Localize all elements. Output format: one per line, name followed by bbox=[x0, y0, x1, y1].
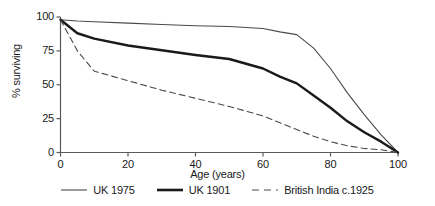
survival-curve-chart: % surviving Age (years) UK 1975 UK 1901 … bbox=[0, 0, 435, 206]
legend-label-uk-1901: UK 1901 bbox=[189, 184, 230, 196]
series-line-uk-1975 bbox=[61, 20, 399, 153]
legend-swatch-thin-solid bbox=[61, 185, 87, 195]
legend-swatch-dashed bbox=[252, 185, 278, 195]
x-tick-label: 40 bbox=[176, 158, 216, 170]
x-tick-label: 100 bbox=[378, 158, 418, 170]
y-tick-label: 75 bbox=[18, 44, 54, 56]
data-series bbox=[61, 20, 399, 153]
chart-legend: UK 1975 UK 1901 British India c.1925 bbox=[0, 184, 435, 196]
legend-swatch-thick-solid bbox=[157, 185, 183, 195]
axis-ticks bbox=[57, 17, 399, 157]
axis-lines bbox=[61, 17, 399, 153]
y-tick-label: 100 bbox=[18, 10, 54, 22]
series-line-uk-1901 bbox=[61, 20, 399, 153]
y-tick-label: 0 bbox=[18, 146, 54, 158]
series-line-british-india-c-1925 bbox=[61, 20, 399, 153]
x-tick-label: 0 bbox=[41, 158, 81, 170]
legend-item-uk-1901: UK 1901 bbox=[157, 184, 230, 196]
x-axis-title: Age (years) bbox=[0, 168, 435, 180]
x-tick-label: 60 bbox=[243, 158, 283, 170]
legend-item-uk-1975: UK 1975 bbox=[61, 184, 134, 196]
legend-item-british-india-1925: British India c.1925 bbox=[252, 184, 374, 196]
legend-label-uk-1975: UK 1975 bbox=[93, 184, 134, 196]
legend-label-british-india-1925: British India c.1925 bbox=[284, 184, 374, 196]
x-tick-label: 80 bbox=[311, 158, 351, 170]
x-tick-label: 20 bbox=[108, 158, 148, 170]
y-tick-label: 50 bbox=[18, 78, 54, 90]
y-tick-label: 25 bbox=[18, 112, 54, 124]
